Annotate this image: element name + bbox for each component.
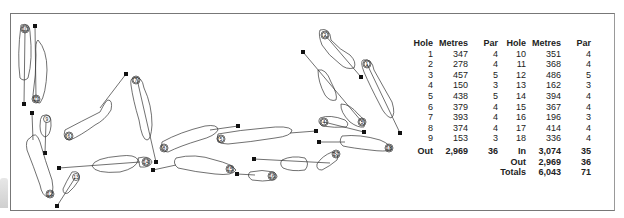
hole-label: 10 xyxy=(22,26,28,32)
cell-metres: 414 xyxy=(526,123,561,134)
cell-metres: 368 xyxy=(526,59,561,70)
in-label: In xyxy=(498,144,526,157)
cell-hole: 2 xyxy=(411,59,433,70)
hole-18: 18 xyxy=(317,136,393,153)
hole-label: 13 xyxy=(73,174,79,180)
cell-par: 5 xyxy=(468,70,498,81)
cell-metres: 393 xyxy=(433,112,468,123)
cell-par: 4 xyxy=(468,123,498,134)
hole-label: 7 xyxy=(135,77,138,83)
hole-15: 15 xyxy=(151,156,236,175)
cell-hole: 14 xyxy=(498,91,526,102)
hole-1: 1 xyxy=(362,60,402,135)
cell-metres: 394 xyxy=(526,91,561,102)
hole-label: 15 xyxy=(227,166,233,172)
cell-hole: 4 xyxy=(411,80,433,91)
hole-label: 2 xyxy=(324,32,327,38)
table-row: 2 278 4 11 368 4 xyxy=(411,59,591,70)
cell-hole: 11 xyxy=(498,59,526,70)
cell-metres: 150 xyxy=(433,80,468,91)
cell-metres: 196 xyxy=(526,112,561,123)
header-par-front: Par xyxy=(468,38,498,49)
hole-14: 14 xyxy=(57,156,152,173)
cell-par: 3 xyxy=(561,80,591,91)
cell-hole: 18 xyxy=(498,133,526,144)
cell-hole: 10 xyxy=(498,49,526,60)
cell-hole: 17 xyxy=(498,123,526,134)
hole-label: 9 xyxy=(46,116,49,122)
totals-row-out-back: Out 2,969 36 xyxy=(411,157,591,168)
hole-label: 3 xyxy=(361,119,364,125)
out-front-metres: 2,969 xyxy=(433,144,468,157)
cell-metres: 278 xyxy=(433,59,468,70)
cell-metres: 153 xyxy=(433,133,468,144)
cell-par: 3 xyxy=(468,80,498,91)
hole-label: 11 xyxy=(33,96,38,102)
scorecard-header-row: Hole Metres Par Hole Metres Par xyxy=(411,38,591,49)
cell-metres: 336 xyxy=(526,133,561,144)
hole-10: 10 xyxy=(19,24,31,106)
table-row: 6 379 4 15 367 4 xyxy=(411,102,591,113)
out-front-par: 36 xyxy=(468,144,498,157)
cell-par: 4 xyxy=(561,49,591,60)
hole-label: 1 xyxy=(366,61,369,67)
header-hole-back: Hole xyxy=(498,38,526,49)
cell-hole: 7 xyxy=(411,112,433,123)
cell-hole: 6 xyxy=(411,102,433,113)
header-par-back: Par xyxy=(561,38,591,49)
cell-par: 4 xyxy=(468,59,498,70)
hole-11: 11 xyxy=(32,24,47,103)
hole-label: 17 xyxy=(333,151,339,157)
cell-hole: 13 xyxy=(498,80,526,91)
in-par: 35 xyxy=(561,144,591,157)
cell-par: 4 xyxy=(561,123,591,134)
cell-metres: 438 xyxy=(433,91,468,102)
cell-metres: 367 xyxy=(526,102,561,113)
cell-par: 5 xyxy=(561,70,591,81)
table-row: 9 153 3 18 336 4 xyxy=(411,133,591,144)
hole-17: 17 xyxy=(252,150,340,171)
cell-hole: 8 xyxy=(411,123,433,134)
cell-hole: 12 xyxy=(498,70,526,81)
hole-8: 8 xyxy=(160,124,240,152)
scorecard-table: Hole Metres Par Hole Metres Par 1 347 4 … xyxy=(411,38,591,178)
cell-metres: 374 xyxy=(433,123,468,134)
cell-par: 4 xyxy=(561,133,591,144)
cell-metres: 162 xyxy=(526,80,561,91)
out-front-label: Out xyxy=(411,144,433,157)
cell-par: 4 xyxy=(468,102,498,113)
totals-metres: 6,043 xyxy=(526,167,561,178)
cell-metres: 379 xyxy=(433,102,468,113)
cell-par: 4 xyxy=(468,112,498,123)
hole-3: 3 xyxy=(301,50,366,127)
hole-7: 7 xyxy=(131,76,158,164)
hole-16: 16 xyxy=(235,171,277,182)
cell-hole: 16 xyxy=(498,112,526,123)
cell-metres: 347 xyxy=(433,49,468,60)
cell-par: 4 xyxy=(561,59,591,70)
cell-par: 4 xyxy=(561,102,591,113)
out-back-metres: 2,969 xyxy=(526,157,561,168)
cell-hole: 9 xyxy=(411,133,433,144)
totals-row-out-in: Out 2,969 36 In 3,074 35 xyxy=(411,144,591,157)
table-row: 4 150 3 13 162 3 xyxy=(411,80,591,91)
cell-hole: 15 xyxy=(498,102,526,113)
header-metres-back: Metres xyxy=(526,38,561,49)
cell-par: 3 xyxy=(468,133,498,144)
cell-metres: 457 xyxy=(433,70,468,81)
table-row: 5 438 5 14 394 4 xyxy=(411,91,591,102)
cell-metres: 486 xyxy=(526,70,561,81)
in-metres: 3,074 xyxy=(526,144,561,157)
table-row: 8 374 4 17 414 4 xyxy=(411,123,591,134)
hole-5: 5 xyxy=(217,127,318,144)
hole-label: 8 xyxy=(163,145,166,151)
hole-label: 4 xyxy=(323,119,326,125)
hole-2: 2 xyxy=(319,29,363,79)
totals-label: Totals xyxy=(498,167,526,178)
table-row: 7 393 4 16 196 3 xyxy=(411,112,591,123)
cell-par: 3 xyxy=(561,112,591,123)
totals-par: 71 xyxy=(561,167,591,178)
header-metres-front: Metres xyxy=(433,38,468,49)
cell-par: 5 xyxy=(468,91,498,102)
cell-hole: 1 xyxy=(411,49,433,60)
